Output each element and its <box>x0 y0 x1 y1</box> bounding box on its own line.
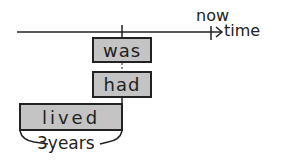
was-box: was <box>92 37 152 63</box>
time-label: time <box>224 21 260 40</box>
lived-box: lived <box>19 103 123 131</box>
duration-label: 3years <box>37 133 95 153</box>
had-box: had <box>92 71 152 98</box>
